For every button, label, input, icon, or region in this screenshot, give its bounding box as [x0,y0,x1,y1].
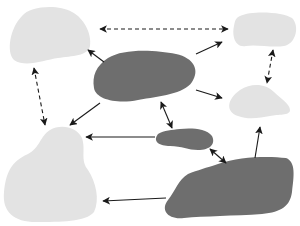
edge-c-tl-arrow [88,50,104,62]
edge-c-tr-arrow [196,42,222,54]
node-right-middle [229,85,290,118]
edge-c-rm-arrow [196,90,222,98]
node-small-center [156,129,213,150]
edge-br-bl-arrow [103,198,166,201]
edge-br-rm-arrow [255,127,260,158]
edge-c-bl-arrow [70,103,100,125]
diagram-canvas [0,0,300,226]
edge-tr-rm-arrow [267,50,273,83]
node-bottom-left [4,127,97,222]
node-bottom-right [165,157,294,218]
edge-c-sc-arrow [161,102,172,128]
edge-sc-br-arrow [210,149,226,163]
diagram-svg [0,0,300,226]
node-center [94,51,196,102]
node-top-left [10,7,90,63]
node-top-right [233,12,296,46]
edge-tl-bl-arrow [34,68,45,125]
nodes-layer [4,7,296,222]
